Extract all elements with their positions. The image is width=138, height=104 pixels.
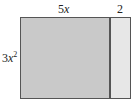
- side-rectangle: [110, 17, 131, 99]
- width-variable: x: [64, 2, 69, 16]
- width-label-5x: 5x: [58, 3, 69, 15]
- height-label-3x2: 3x2: [2, 52, 17, 64]
- width-label-2: 2: [117, 3, 123, 15]
- height-exponent: 2: [13, 50, 17, 59]
- main-rectangle: [20, 17, 110, 99]
